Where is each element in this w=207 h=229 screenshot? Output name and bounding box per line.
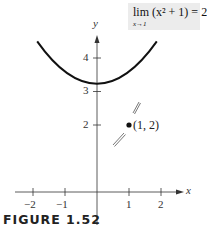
point-label: (1, 2) [133,118,159,133]
figure-root: y x −2 −1 1 2 2 3 4 (1, 2) lim (x² + 1) … [0,0,207,229]
x-axis-label: x [186,184,191,196]
limit-subscript: x→1 [133,20,147,28]
y-axis-arrow-icon [95,35,100,43]
x-tick-label: −1 [56,198,68,210]
approach-arrow-upper-icon [133,102,141,114]
y-axis-label: y [93,17,98,29]
x-axis-arrow-icon [176,190,184,195]
point-marker [126,122,131,127]
y-tick-label: 4 [83,51,89,63]
y-tick-label: 3 [83,84,89,96]
limit-expression: lim (x² + 1) = 2 [133,5,207,20]
x-tick-label: 1 [126,198,132,210]
parabola-chart [0,0,207,229]
figure-caption: FIGURE 1.52 [3,212,101,227]
x-tick-label: −2 [24,198,36,210]
limit-annotation-box: lim (x² + 1) = 2 x→1 [128,3,200,30]
approach-arrow-lower-icon [113,133,126,147]
x-tick-label: 2 [158,198,164,210]
y-tick-label: 2 [83,118,89,130]
